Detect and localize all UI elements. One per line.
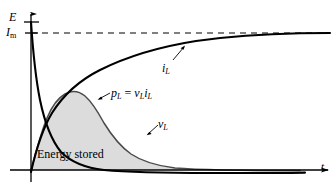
curve-label-pL: pL = vLiL (111, 87, 152, 101)
curve-label-vL-subscript: L (163, 123, 168, 132)
leader-arrowhead-iL (181, 46, 186, 50)
x-axis-label-t: t (321, 161, 324, 172)
leader-arrowhead-vL (147, 132, 152, 136)
y-axis-tick-label-Im: Im (6, 26, 16, 40)
shaded-region-label: Energy stored (37, 148, 104, 160)
curve-label-pL-equals: = (122, 86, 135, 100)
inductor-energy-figure: E Im iL pL = vLiL vL t Energy stored (0, 0, 336, 193)
y-axis-tick-label-Im-subscript: m (10, 31, 16, 40)
plot-canvas (0, 0, 336, 193)
y-axis-label-E: E (9, 11, 16, 23)
curve-label-vL: vL (158, 118, 168, 132)
curve-label-iL: iL (162, 62, 170, 76)
curve-label-iL-subscript: L (165, 67, 170, 76)
curve-label-pL-rhs-i-subscript: L (148, 92, 153, 101)
